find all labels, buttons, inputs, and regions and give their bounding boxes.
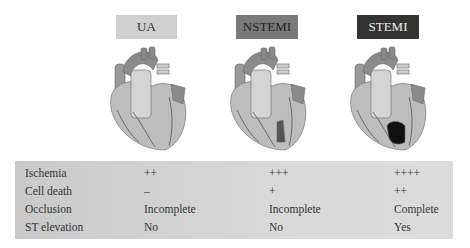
cell-stemi: Complete xyxy=(394,203,439,215)
heart-stemi-icon xyxy=(343,42,433,154)
cell-nstemi: +++ xyxy=(269,167,288,179)
row-label: ST elevation xyxy=(25,221,83,233)
label-ua: UA xyxy=(116,15,177,39)
cell-ua: No xyxy=(144,221,158,233)
cell-stemi: ++++ xyxy=(394,167,420,179)
cell-nstemi: No xyxy=(269,221,283,233)
heart-ua-icon xyxy=(103,42,193,154)
cell-ua: Incomplete xyxy=(144,203,196,215)
table-row: ST elevation No No Yes xyxy=(15,221,453,239)
label-nstemi: NSTEMI xyxy=(236,15,298,39)
heart-nstemi-icon xyxy=(223,42,313,154)
cell-ua: – xyxy=(144,185,150,197)
table-row: Occlusion Incomplete Incomplete Complete xyxy=(15,203,453,221)
cell-ua: ++ xyxy=(144,167,157,179)
row-label: Occlusion xyxy=(25,203,72,215)
label-stemi: STEMI xyxy=(357,15,419,39)
cell-stemi: ++ xyxy=(394,185,407,197)
table-row: Ischemia ++ +++ ++++ xyxy=(15,167,453,185)
table-row: Cell death – + ++ xyxy=(15,185,453,203)
cell-nstemi: Incomplete xyxy=(269,203,321,215)
comparison-table: Ischemia ++ +++ ++++ Cell death – + ++ O… xyxy=(15,161,453,239)
row-label: Ischemia xyxy=(25,167,67,179)
cell-stemi: Yes xyxy=(394,221,411,233)
row-label: Cell death xyxy=(25,185,72,197)
cell-nstemi: + xyxy=(269,185,276,197)
